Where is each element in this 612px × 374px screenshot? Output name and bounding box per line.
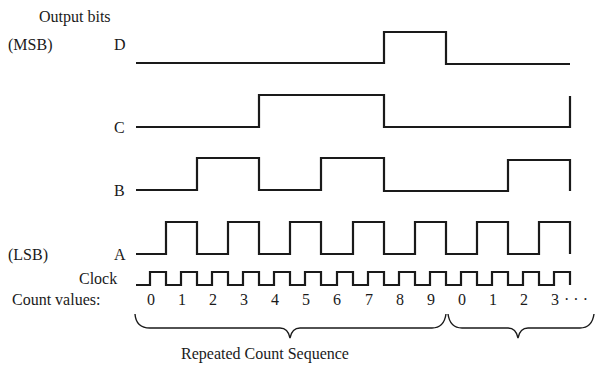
count-value: 0 [452,292,472,308]
waveform-c [136,95,570,127]
count-value: 1 [483,292,503,308]
count-value: 2 [514,292,534,308]
timing-waveforms [0,0,612,374]
count-value: 2 [203,292,223,308]
brace-first-sequence [135,314,446,338]
waveform-d [136,32,570,64]
count-value: 9 [421,292,441,308]
count-value: 8 [390,292,410,308]
count-value: 3 [234,292,254,308]
count-value: 6 [327,292,347,308]
count-value: 4 [265,292,285,308]
waveform-a [136,222,570,254]
count-value: 7 [359,292,379,308]
count-value: 5 [296,292,316,308]
brace-second-sequence [448,314,594,338]
count-ellipsis: · · · [564,292,588,308]
waveform-b [136,158,570,191]
count-value: 0 [141,292,161,308]
count-value: 1 [172,292,192,308]
waveform-clock [136,272,570,285]
count-value: 3 [545,292,565,308]
repeated-count-sequence-label: Repeated Count Sequence [181,346,349,362]
